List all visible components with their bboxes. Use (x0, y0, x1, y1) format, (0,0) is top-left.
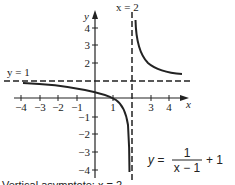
function-graph: −4 −3 −2 −1 1 3 4 4 3 2 −1 −2 −3 −4 y x … (0, 0, 235, 185)
equation-denominator: x − 1 (174, 161, 201, 175)
x-tick-label: −4 (15, 101, 27, 113)
y-tick-label: −3 (78, 146, 90, 158)
equation-label: y = 1 x − 1 + 1 (147, 146, 223, 175)
curve-left-branch (23, 83, 130, 172)
x-tick-label: 1 (110, 101, 116, 113)
x-tick-labels: −4 −3 −2 −1 1 3 4 (15, 101, 172, 113)
h-asymptote-label: y = 1 (7, 66, 30, 78)
x-axis-label: x (185, 98, 191, 110)
equation-numerator: 1 (184, 146, 191, 160)
y-tick-label: 4 (85, 22, 91, 34)
x-tick-label: −3 (34, 101, 46, 113)
y-axis-arrow-icon (92, 10, 98, 19)
x-tick-label: 3 (148, 101, 154, 113)
equation-suffix: + 1 (206, 153, 223, 167)
y-tick-label: −4 (78, 164, 90, 176)
equation-lhs: y = (147, 153, 164, 167)
curve-right-branch (136, 20, 183, 74)
y-tick-label: −2 (78, 128, 90, 140)
y-tick-labels: 4 3 2 −1 −2 −3 −4 (78, 22, 90, 176)
x-tick-label: 4 (166, 101, 172, 113)
v-asymptote-label: x = 2 (116, 1, 139, 13)
y-axis-label: y (83, 10, 89, 22)
y-tick-label: −1 (78, 111, 90, 123)
footer-caption: Vertical asymptote: x = 2 (2, 179, 122, 185)
x-tick-label: −2 (52, 101, 64, 113)
y-tick-label: 2 (85, 57, 91, 69)
y-tick-label: 3 (85, 39, 91, 51)
